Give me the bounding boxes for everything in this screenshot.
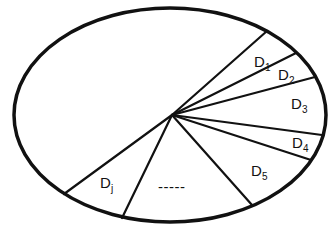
svg-text:D: D (292, 134, 303, 151)
svg-text:D: D (100, 174, 111, 191)
boundary-line (122, 115, 172, 218)
sector-label-d2: D 2 (278, 66, 295, 86)
boundary-line (172, 115, 322, 135)
partition-diagram: D 1 D 2 D 3 D 4 D 5 ----- D j (0, 0, 334, 234)
svg-text:D: D (291, 95, 302, 112)
svg-text:D: D (251, 162, 262, 179)
sector-label-d5: D 5 (251, 162, 268, 182)
svg-text:D: D (278, 66, 289, 83)
svg-text:-----: ----- (158, 178, 185, 195)
svg-text:5: 5 (262, 171, 268, 182)
sector-label-d4: D 4 (292, 134, 309, 154)
svg-text:3: 3 (302, 104, 308, 115)
boundary-line (64, 115, 172, 194)
svg-text:D: D (254, 53, 265, 70)
sector-label-d3: D 3 (291, 95, 308, 115)
svg-text:4: 4 (303, 143, 309, 154)
sector-label-ellipsis: ----- (158, 178, 185, 195)
svg-text:2: 2 (289, 75, 295, 86)
sector-label-dj: D j (100, 174, 113, 194)
boundary-line (172, 53, 296, 115)
svg-text:1: 1 (265, 62, 271, 73)
svg-text:j: j (110, 183, 113, 194)
